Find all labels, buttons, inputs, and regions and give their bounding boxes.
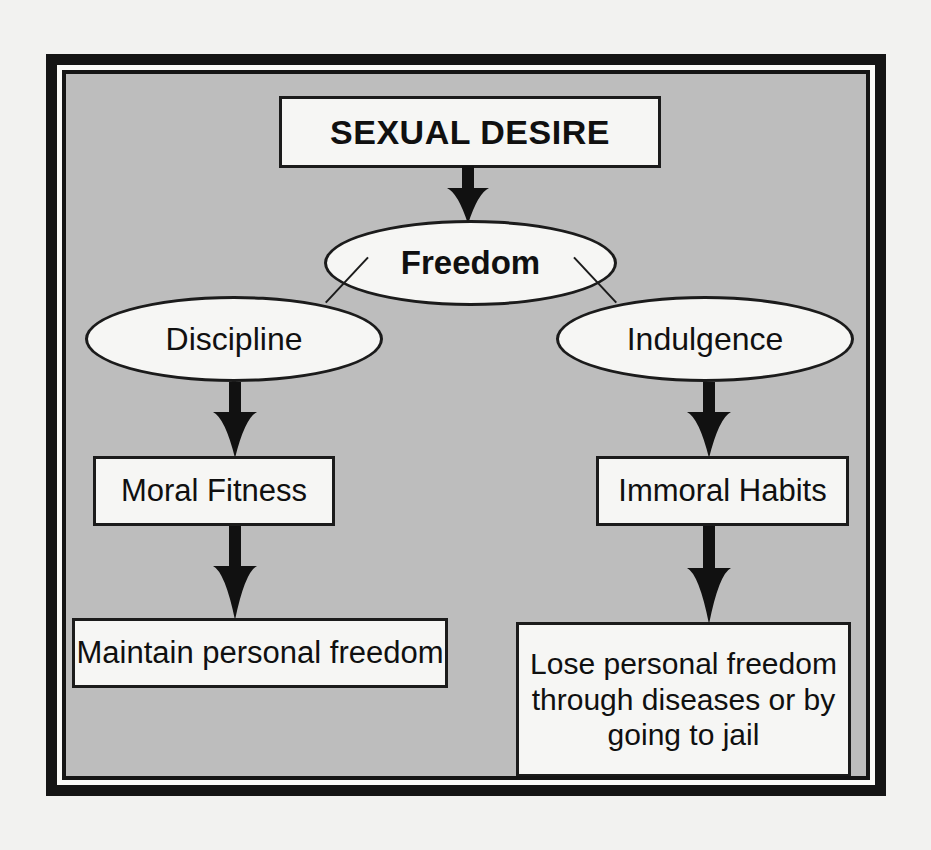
node-lose-freedom-line-1: Lose personal freedom bbox=[530, 646, 837, 681]
node-discipline-label: Discipline bbox=[166, 321, 303, 358]
node-discipline[interactable]: Discipline bbox=[85, 296, 383, 382]
node-freedom-label: Freedom bbox=[401, 244, 540, 282]
node-sexual-desire-label: SEXUAL DESIRE bbox=[330, 112, 610, 152]
node-lose-freedom-line-3: going to jail bbox=[530, 717, 837, 752]
node-maintain-personal-freedom-label: Maintain personal freedom bbox=[76, 635, 443, 672]
node-lose-personal-freedom[interactable]: Lose personal freedom through diseases o… bbox=[516, 622, 851, 776]
node-indulgence-label: Indulgence bbox=[627, 321, 784, 358]
down-block-arrow-icon bbox=[211, 382, 259, 458]
down-block-arrow-icon bbox=[685, 382, 733, 458]
node-moral-fitness[interactable]: Moral Fitness bbox=[93, 456, 335, 526]
node-maintain-personal-freedom[interactable]: Maintain personal freedom bbox=[72, 618, 448, 688]
node-lose-personal-freedom-label: Lose personal freedom through diseases o… bbox=[530, 646, 837, 752]
node-freedom[interactable]: Freedom bbox=[324, 220, 617, 306]
diagram-page: SEXUAL DESIRE Freedom Discipline Indulge… bbox=[0, 0, 931, 850]
node-moral-fitness-label: Moral Fitness bbox=[121, 473, 307, 510]
node-immoral-habits[interactable]: Immoral Habits bbox=[596, 456, 849, 526]
down-block-arrow-icon bbox=[211, 526, 259, 620]
node-sexual-desire[interactable]: SEXUAL DESIRE bbox=[279, 96, 661, 168]
node-indulgence[interactable]: Indulgence bbox=[556, 296, 854, 382]
node-immoral-habits-label: Immoral Habits bbox=[618, 473, 826, 510]
node-lose-freedom-line-2: through diseases or by bbox=[530, 682, 837, 717]
down-block-arrow-icon bbox=[685, 526, 733, 624]
down-block-arrow-icon bbox=[445, 166, 491, 224]
diagram-canvas: SEXUAL DESIRE Freedom Discipline Indulge… bbox=[66, 74, 866, 776]
